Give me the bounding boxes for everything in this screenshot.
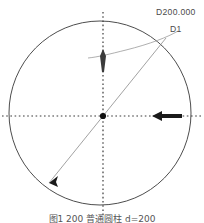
center-point: [100, 113, 106, 119]
cad-drawing-canvas: D200.000 D1 图1 200 普通圆柱 d=200: [0, 0, 204, 223]
outer-circle: [9, 21, 191, 205]
cad-drawing-svg: D200.000 D1: [0, 0, 204, 223]
dimension-id-label: D1: [170, 24, 182, 34]
horizontal-centerline-arrow: [152, 111, 182, 121]
vertical-centerline-arrow: [100, 49, 106, 72]
diameter-value-label: D200.000: [156, 7, 196, 17]
diameter-dimension-line: [49, 38, 166, 183]
